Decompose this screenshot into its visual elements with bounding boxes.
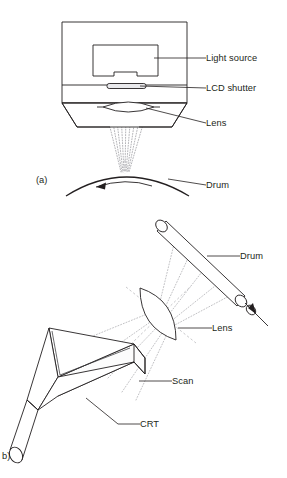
figure-root: Light source LCD shutter Lens Drum (a) xyxy=(0,0,287,478)
label-drum-b: Drum xyxy=(240,251,263,261)
label-lens-b: Lens xyxy=(212,323,233,333)
label-lens-a: Lens xyxy=(206,118,227,128)
drum-surface xyxy=(66,177,189,196)
label-lcd-shutter: LCD shutter xyxy=(206,83,256,93)
label-scan: Scan xyxy=(172,376,193,386)
technical-diagram: Light source LCD shutter Lens Drum (a) xyxy=(0,0,287,478)
panel-caption-b: b) xyxy=(2,451,10,461)
drum-axis-line xyxy=(245,303,268,326)
drum-cylinder xyxy=(153,218,268,326)
drum-rotation-arrowhead xyxy=(96,183,106,190)
leader-crt xyxy=(86,398,140,424)
drum-body xyxy=(157,221,245,306)
label-crt: CRT xyxy=(140,419,159,429)
panel-a: Light source LCD shutter Lens Drum (a) xyxy=(36,22,257,196)
label-drum-a: Drum xyxy=(206,180,229,190)
leader-drum-a xyxy=(168,179,206,185)
panel-caption-a: (a) xyxy=(36,175,47,185)
crt-assembly xyxy=(7,328,145,465)
light-source-body xyxy=(93,45,158,76)
label-light-source: Light source xyxy=(206,53,257,63)
panel-b: Drum Lens Scan CRT b) xyxy=(2,218,268,465)
